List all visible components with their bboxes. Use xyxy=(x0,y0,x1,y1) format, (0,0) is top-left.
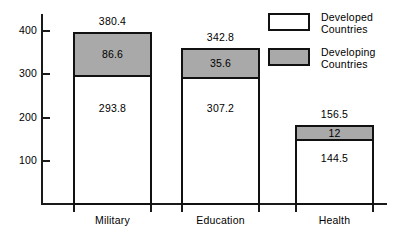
bar-segment-developed-health[interactable]: 144.5 xyxy=(295,139,374,205)
y-axis-label-400-wrap: 400 xyxy=(0,25,37,37)
x-axis-tick-health-left xyxy=(295,205,297,212)
legend-label-developed-line1: Developed xyxy=(321,11,373,23)
bar-military[interactable]: 380.4 86.6 293.8 Military xyxy=(73,32,152,205)
x-axis-tick-education-left xyxy=(181,205,183,212)
legend-item-developing[interactable]: Developing Countries xyxy=(268,47,404,70)
legend-label-developed: Developed Countries xyxy=(321,12,373,35)
x-axis-tick-military-right xyxy=(150,205,152,212)
legend-label-developed-line2: Countries xyxy=(321,24,373,36)
legend-swatch-white-icon xyxy=(268,13,310,31)
legend-label-developing-line2: Countries xyxy=(321,59,376,71)
chart-legend: Developed Countries Developing Countries xyxy=(268,12,404,82)
bar-value-developing-health: 12 xyxy=(328,128,340,139)
legend-label-developing-line1: Developing xyxy=(321,46,376,58)
bar-value-developed-military: 293.8 xyxy=(99,103,126,114)
x-axis-tick-education-right xyxy=(258,205,260,212)
x-axis-tick-health-right xyxy=(372,205,374,212)
y-axis-label-400: 400 xyxy=(7,25,37,36)
y-axis-tick-100 xyxy=(43,160,50,162)
bar-total-label-military: 380.4 xyxy=(53,16,172,27)
y-axis-label-300: 300 xyxy=(7,68,37,79)
bar-value-developing-education: 35.6 xyxy=(210,58,231,69)
y-axis-tick-200 xyxy=(43,117,50,119)
y-axis-tick-300 xyxy=(43,73,50,75)
legend-item-developed[interactable]: Developed Countries xyxy=(268,12,404,35)
legend-label-developing: Developing Countries xyxy=(321,47,376,70)
bar-value-developing-military: 86.6 xyxy=(102,49,123,60)
y-axis-tick-400 xyxy=(43,30,50,32)
y-axis-label-100-wrap: 100 xyxy=(0,155,37,167)
bar-segment-developed-education[interactable]: 307.2 xyxy=(181,77,260,205)
y-axis-label-200: 200 xyxy=(7,112,37,123)
bar-total-label-health: 156.5 xyxy=(275,109,394,120)
bar-health[interactable]: 156.5 12 144.5 Health xyxy=(295,125,374,205)
y-axis-label-300-wrap: 300 xyxy=(0,68,37,80)
bar-value-developed-health: 144.5 xyxy=(321,153,348,164)
y-axis-label-200-wrap: 200 xyxy=(0,112,37,124)
stacked-bar-chart: 400 300 200 100 380.4 86.6 293.8 Militar… xyxy=(0,0,406,244)
bar-value-developed-education: 307.2 xyxy=(207,103,234,114)
x-axis-tick-military-left xyxy=(73,205,75,212)
bar-education[interactable]: 342.8 35.6 307.2 Education xyxy=(181,48,260,205)
x-axis-category-education: Education xyxy=(155,215,286,226)
y-axis-line xyxy=(41,14,43,205)
legend-swatch-gray-icon xyxy=(268,48,310,66)
y-axis-label-100: 100 xyxy=(7,155,37,166)
x-axis-category-health: Health xyxy=(269,215,400,226)
bar-segment-developed-military[interactable]: 293.8 xyxy=(73,75,152,205)
bar-segment-developing-military[interactable]: 86.6 xyxy=(73,32,152,77)
bar-segment-developing-education[interactable]: 35.6 xyxy=(181,48,260,79)
bar-total-label-education: 342.8 xyxy=(161,32,280,43)
